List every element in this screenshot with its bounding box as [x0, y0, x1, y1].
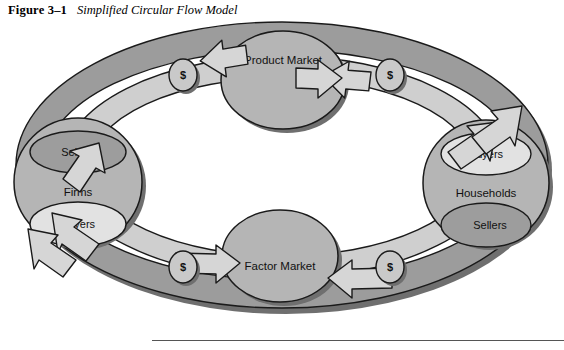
node-label-households: Households	[456, 187, 517, 199]
figure-title: Simplified Circular Flow Model	[77, 3, 237, 17]
figure-container: Figure 3–1Simplified Circular Flow Model	[0, 0, 564, 350]
node-label-factor-market: Factor Market	[245, 260, 317, 272]
money-label-bottom-right: $	[387, 261, 393, 273]
figure-number: Figure 3–1	[8, 3, 67, 17]
money-label-top-left: $	[180, 69, 186, 81]
circular-flow-diagram: Product Market Factor Market Selle	[0, 16, 564, 334]
figure-bottom-rule	[152, 340, 564, 341]
money-label-top-right: $	[387, 69, 393, 81]
node-label-product-market: Product Market	[244, 54, 323, 66]
money-label-bottom-left: $	[180, 261, 186, 273]
role-label-households-sellers: Sellers	[473, 219, 507, 231]
